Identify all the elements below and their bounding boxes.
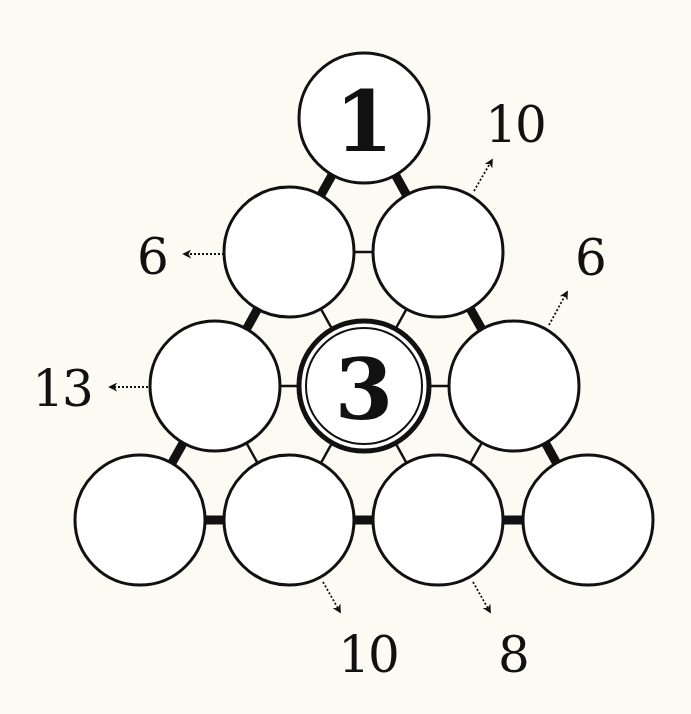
cell-r2c1[interactable] — [224, 187, 354, 317]
clue-right-row2: 6 — [575, 233, 605, 283]
clue-bottom-col3: 8 — [498, 630, 528, 680]
cell-r2c2[interactable] — [373, 187, 503, 317]
cell-r4c4[interactable] — [523, 455, 653, 585]
clue-bottom-col2: 10 — [338, 630, 398, 680]
pyramid-board — [0, 0, 691, 714]
cell-r3c3[interactable] — [449, 321, 579, 451]
dotted-arrow-icon — [474, 160, 492, 191]
cell-r4c3[interactable] — [373, 455, 503, 585]
cell-r1c1[interactable] — [299, 53, 429, 183]
dotted-arrow-icon — [473, 582, 490, 612]
clue-left-row2: 6 — [137, 232, 167, 282]
cell-r4c1[interactable] — [75, 455, 205, 585]
dotted-arrow-icon — [323, 582, 340, 612]
cell-layer — [75, 53, 653, 585]
dotted-arrow-icon — [549, 292, 567, 325]
cell-r3c2[interactable] — [299, 321, 429, 451]
clue-top-right: 10 — [485, 100, 545, 150]
cell-r4c2[interactable] — [224, 455, 354, 585]
clue-left-row3: 13 — [32, 364, 92, 414]
cell-r3c1[interactable] — [150, 321, 280, 451]
